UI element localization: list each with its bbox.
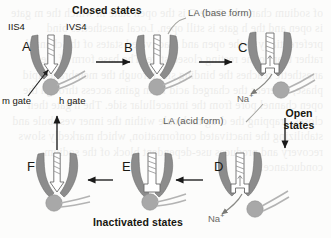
- panel-letter-f: F: [27, 159, 35, 174]
- panel-letter-e: E: [122, 159, 131, 174]
- sodium-flux-path-c: [251, 74, 272, 94]
- panel-a-channel: [30, 35, 86, 95]
- panel-d-channel: [218, 152, 289, 217]
- label-m-gate: m gate: [2, 95, 31, 106]
- sodium-flux-path-d: [222, 194, 242, 214]
- sodium-symbol-c: Na: [237, 93, 249, 104]
- la-base-leader: [168, 18, 186, 34]
- panel-e-channel: [131, 153, 186, 210]
- sodium-label-d: Na+: [208, 213, 224, 224]
- panel-f-channel: [36, 153, 90, 211]
- label-la-base-form: LA (base form): [188, 7, 252, 18]
- label-h-gate: h gate: [59, 95, 85, 106]
- sodium-charge-d: +: [220, 212, 224, 219]
- la-acid-leader: [246, 104, 263, 122]
- label-iis4: IIS4: [8, 21, 25, 32]
- panel-letter-b: B: [124, 40, 133, 55]
- sodium-channel-gating-figure: of sodium channels. State C is the open …: [0, 0, 331, 238]
- panel-letter-a: A: [22, 39, 31, 54]
- open-states-title: Open states: [272, 108, 326, 131]
- panel-c-channel: [248, 32, 315, 98]
- label-la-acid-form: LA (acid form): [163, 115, 224, 126]
- sodium-label-c: Na+: [237, 93, 253, 104]
- panel-letter-d: D: [214, 159, 224, 174]
- panel-b-channel: [136, 35, 192, 95]
- sodium-charge-c: +: [249, 92, 253, 99]
- panel-letter-c: C: [238, 40, 248, 55]
- label-ivs4: IVS4: [66, 21, 87, 32]
- sodium-symbol-d: Na: [208, 213, 220, 224]
- closed-states-title: Closed states: [72, 4, 142, 16]
- inactivated-states-title: Inactivated states: [93, 216, 183, 228]
